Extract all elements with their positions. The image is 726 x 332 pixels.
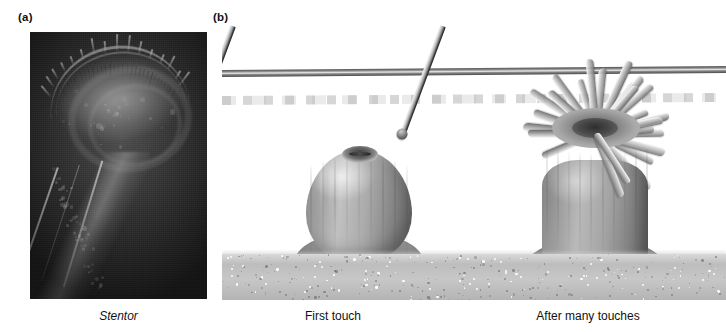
sand-grain — [262, 270, 263, 271]
sand-grain — [362, 260, 364, 262]
sand-grain — [278, 281, 279, 282]
sand-grain — [657, 288, 658, 289]
sand-grain — [489, 295, 491, 297]
sand-grain — [597, 257, 600, 260]
sand-grain — [242, 265, 244, 267]
sand-grain — [617, 269, 618, 270]
sand-grain — [464, 287, 466, 289]
sand-grain — [711, 266, 712, 267]
sand-grain — [391, 290, 393, 292]
sand-grain — [713, 273, 715, 275]
sand-grain — [444, 295, 446, 297]
sand-grain — [453, 260, 454, 261]
sand-grain — [469, 299, 470, 300]
sand-grain — [236, 283, 239, 286]
sand-grain — [480, 289, 482, 291]
sand-grain — [403, 285, 405, 287]
sand-grain — [529, 288, 531, 290]
sand-grain — [372, 259, 373, 260]
sand-grain — [570, 275, 572, 277]
sand-grain — [480, 296, 482, 298]
sand-grain — [399, 290, 401, 292]
sand-grain — [609, 281, 611, 283]
sand-grain — [308, 296, 311, 299]
sand-grain — [565, 289, 566, 290]
anemone-rib — [646, 148, 648, 244]
anemone-highlight — [329, 168, 332, 224]
sand-grain — [359, 293, 360, 294]
sand-grain — [642, 284, 644, 286]
sand-grain — [307, 259, 309, 261]
sand-grain — [440, 296, 442, 298]
sand-grain — [377, 286, 378, 287]
sand-grain — [556, 294, 559, 297]
sand-grain — [250, 258, 252, 260]
sand-grain — [371, 275, 372, 276]
sand-grain — [453, 267, 455, 269]
sand-grain — [333, 274, 335, 276]
sand-grain — [307, 299, 308, 300]
sand-grain — [379, 284, 380, 285]
sand-grain — [276, 268, 278, 270]
sand-grain — [289, 273, 290, 274]
caption-after-many-touches: After many touches — [470, 309, 706, 323]
probe-left-shaft — [222, 25, 235, 132]
sand-grain — [353, 258, 356, 261]
sand-grain — [603, 270, 605, 272]
sand-grain — [251, 292, 252, 293]
sand-grain — [411, 296, 412, 297]
sand-grain — [586, 275, 587, 276]
sand-grain — [361, 287, 362, 288]
sand-grain — [646, 266, 648, 268]
sand-grain — [316, 264, 317, 265]
sand-grain — [314, 296, 317, 299]
sand-grain — [420, 299, 421, 300]
sand-grain — [674, 267, 676, 269]
sand-grain — [256, 277, 258, 279]
sand-grain — [422, 290, 423, 291]
anemone-rib — [394, 161, 396, 256]
sand-grain — [515, 273, 517, 275]
sand-grain — [279, 291, 281, 293]
probe-left — [222, 25, 235, 132]
sand-grain — [265, 265, 268, 268]
sand-grain — [505, 272, 507, 274]
sand-grain — [223, 281, 224, 282]
sand-grain — [538, 278, 539, 279]
sand-grain — [699, 287, 701, 289]
anemone-highlight — [338, 172, 341, 222]
sand-grain — [724, 277, 725, 278]
sand-grain — [456, 258, 458, 260]
sand-grain — [608, 254, 609, 255]
sand-grain — [707, 280, 708, 281]
sand-grain — [367, 278, 369, 280]
sand-grain — [283, 257, 284, 258]
sand-grain — [670, 270, 671, 271]
sand-grain — [330, 266, 332, 268]
sand-grain — [292, 298, 294, 300]
sand-grain — [596, 277, 598, 279]
sand-grain — [573, 262, 574, 263]
sand-grain — [267, 257, 268, 258]
substrate — [222, 254, 726, 300]
sand-grain — [463, 272, 466, 275]
sand-grain — [410, 299, 412, 300]
sand-grain — [719, 293, 721, 295]
anemone-highlight — [320, 164, 323, 226]
sand-grain — [539, 282, 540, 283]
sand-grain — [625, 278, 626, 279]
sand-grain — [695, 274, 696, 275]
sand-grain — [671, 287, 673, 289]
anemone-rib — [635, 150, 637, 250]
sand-grain — [596, 297, 597, 298]
sand-grain — [635, 294, 636, 295]
sand-grain — [674, 257, 675, 258]
sand-grain — [428, 278, 429, 279]
sand-grain — [544, 263, 545, 264]
sand-grain — [633, 267, 634, 268]
sand-grain — [302, 299, 304, 300]
sand-grain — [494, 258, 496, 260]
sand-grain — [487, 279, 489, 281]
sand-grain — [385, 257, 386, 258]
sand-grain — [299, 269, 300, 270]
